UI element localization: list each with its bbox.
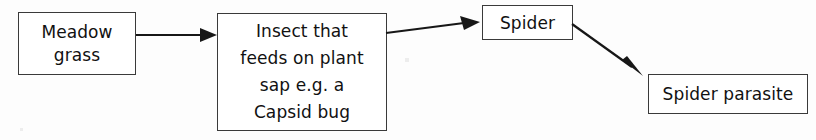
arrow-insect-to-spider <box>386 14 486 40</box>
arrow-spider-to-parasite <box>570 20 652 82</box>
arrow-head <box>460 16 480 30</box>
node-insect-line-1: Insect that <box>256 18 348 45</box>
scan-speck <box>405 58 409 62</box>
arrow-shaft <box>386 23 464 33</box>
arrow-grass-to-insect <box>136 24 220 46</box>
node-insect-line-3: sap e.g. a <box>260 72 344 99</box>
arrow-head <box>200 28 217 42</box>
node-spider-line-1: Spider <box>500 12 555 34</box>
node-meadow-grass[interactable]: Meadow grass <box>18 12 136 75</box>
node-insect-line-4: Capsid bug <box>254 99 350 126</box>
node-spider-parasite-line-1: Spider parasite <box>663 83 794 105</box>
node-meadow-grass-line-2: grass <box>54 44 100 67</box>
arrow-head <box>622 56 643 76</box>
node-spider-parasite[interactable]: Spider parasite <box>648 74 808 114</box>
node-insect[interactable]: Insect that feeds on plant sap e.g. a Ca… <box>217 13 387 131</box>
scan-speck <box>20 128 23 131</box>
node-insect-line-2: feeds on plant <box>240 45 363 72</box>
diagram-canvas: Meadow grass Insect that feeds on plant … <box>0 0 816 140</box>
node-meadow-grass-line-1: Meadow <box>41 21 112 44</box>
node-spider[interactable]: Spider <box>482 5 573 40</box>
